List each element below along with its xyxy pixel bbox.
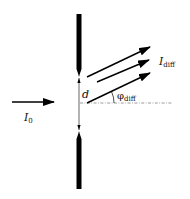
- slit-dimension-arrowhead-bottom-icon: [77, 125, 80, 130]
- diffracted-beam-arrow-2: [97, 60, 149, 82]
- diffraction-angle-arc: [112, 92, 115, 104]
- barrier-bottom: [77, 131, 82, 189]
- slit-width-label: d: [82, 88, 89, 101]
- incident-intensity-label: I0: [23, 111, 33, 125]
- diffraction-diagram: I0 d φdiff Idiff: [0, 0, 190, 199]
- diffracted-intensity-label: Idiff: [158, 55, 176, 69]
- slit-dimension-arrowhead-top-icon: [77, 78, 80, 83]
- barrier-top: [77, 14, 82, 77]
- diffraction-angle-label: φdiff: [117, 90, 137, 103]
